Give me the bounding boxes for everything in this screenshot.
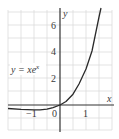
curve-label-main: y = xe [10, 64, 37, 75]
tick-y-6: 6 [51, 20, 56, 31]
tick-x-0: 0 [52, 108, 57, 119]
curve-label: y = xex [10, 63, 40, 75]
tick-y-2: 2 [51, 73, 56, 84]
tick-y-4: 4 [51, 46, 56, 57]
tick-x-1: 1 [83, 108, 88, 119]
y-axis-label: y [62, 8, 68, 19]
tick-x-neg1: −1 [26, 108, 37, 119]
chart: y x 6 4 2 −1 0 1 y = xex [0, 0, 119, 139]
x-axis-label: x [106, 93, 112, 104]
